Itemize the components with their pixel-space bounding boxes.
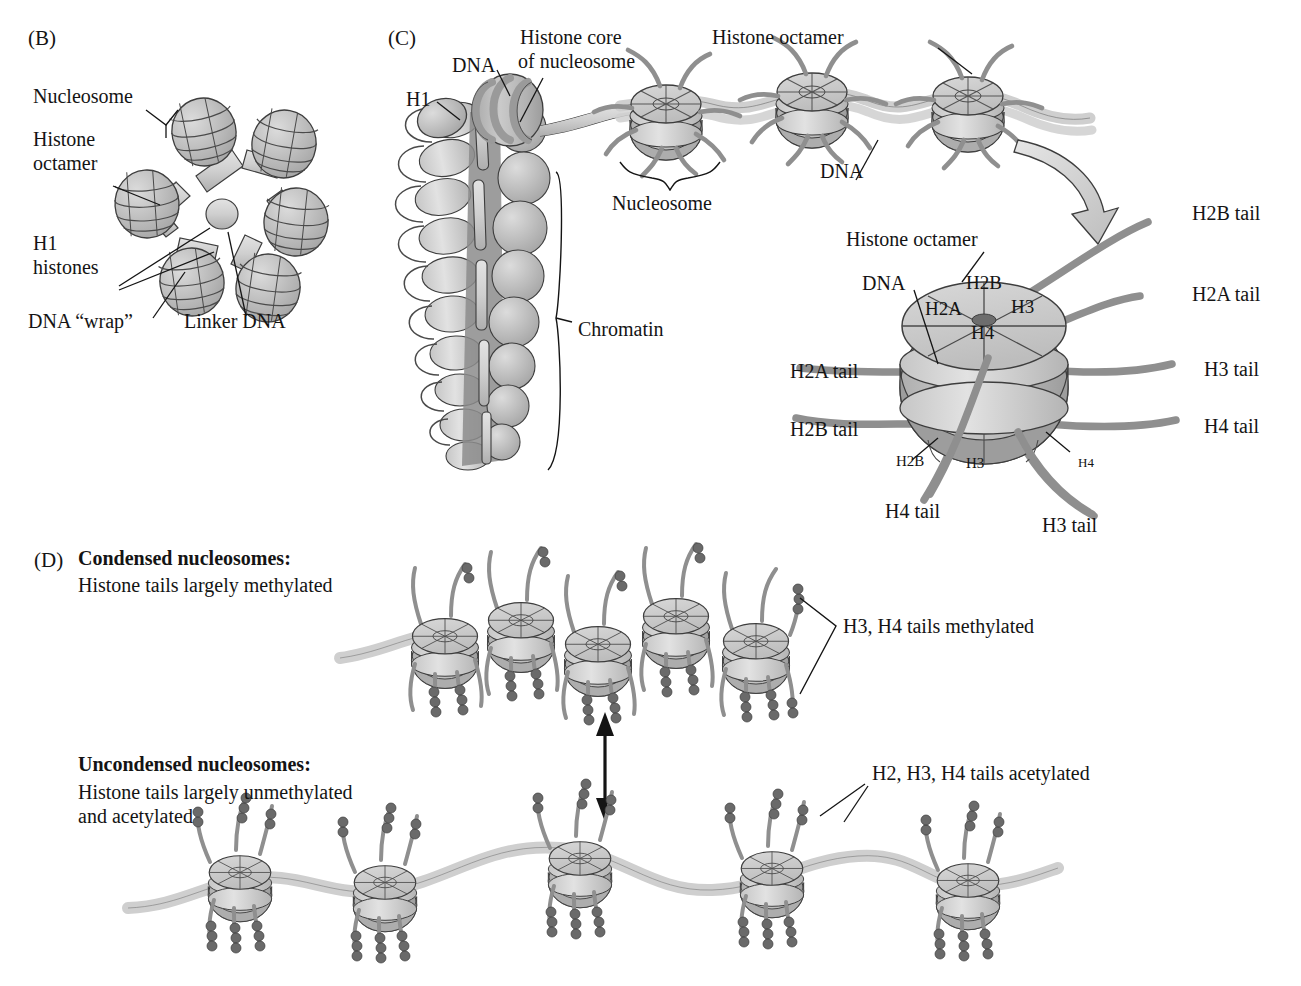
tail-h4-right [1046, 420, 1176, 427]
panel-b-label-dna-wrap: DNA “wrap” [28, 310, 133, 334]
panel-b-label-h1-line2: histones [33, 256, 99, 280]
uncondensed-subtitle-line2: and acetylated [78, 805, 193, 829]
panel-d-tag: (D) [34, 548, 63, 573]
detail-label-h3-tail-bottom: H3 tail [1042, 514, 1097, 538]
condensed-nucleosome-4 [641, 543, 713, 697]
figure-canvas: (B) Nucleosome Histone octamer H1 histon… [0, 0, 1301, 986]
panel-c-label-dna-top: DNA [452, 54, 495, 78]
diagram-vector-layer [0, 0, 1301, 986]
condensed-subtitle: Histone tails largely methylated [78, 574, 333, 598]
panel-d-uncondensed-row [128, 779, 1058, 963]
panel-b-label-nucleosome: Nucleosome [33, 85, 133, 109]
panel-c-label-dna-chain: DNA [820, 160, 863, 184]
detail-core-h2a: H2A [925, 298, 962, 320]
panel-c-label-histone-octamer-top: Histone octamer [712, 26, 844, 50]
panel-b-label-histone-octamer-line2: octamer [33, 152, 97, 176]
panel-b-label-histone-octamer-line1: Histone [33, 128, 95, 152]
condensed-callout-bracket [800, 598, 836, 694]
condensed-nucleosome-5 [721, 569, 804, 722]
detail-label-h2a-tail-left: H2A tail [790, 360, 858, 384]
tail-h2b-top [1018, 222, 1148, 300]
detail-core-h2b: H2B [966, 272, 1002, 294]
condensed-nucleosome-2 [486, 547, 558, 701]
detail-label-h2a-tail-right: H2A tail [1192, 283, 1260, 307]
uncondensed-nucleosome-4 [725, 789, 808, 949]
condensed-title: Condensed nucleosomes: [78, 547, 291, 571]
panel-c-label-histone-core-line1: Histone core [520, 26, 622, 50]
uncondensed-title: Uncondensed nucleosomes: [78, 753, 311, 777]
detail-side-h3: H3 [966, 455, 984, 473]
uncondensed-subtitle-line1: Histone tails largely unmethylated [78, 781, 353, 805]
detail-label-h4-tail-right: H4 tail [1204, 415, 1259, 439]
panel-d-condensed-row [340, 543, 836, 725]
panel-b-label-linker-dna: Linker DNA [184, 310, 286, 334]
panel-c-chromatin-fiber [396, 70, 634, 470]
uncondensed-callout: H2, H3, H4 tails acetylated [872, 762, 1090, 786]
detail-core-h4: H4 [971, 322, 994, 344]
panel-b-tag: (B) [28, 26, 56, 51]
condensed-nucleosome-1 [410, 563, 482, 717]
uncondensed-nucleosome-2 [338, 803, 421, 963]
detail-side-h4: H4 [1078, 455, 1094, 470]
pointer-h4 [1046, 432, 1070, 452]
detail-label-dna: DNA [862, 272, 905, 296]
uncondensed-nucleosome-1 [193, 793, 276, 953]
detail-label-h4-tail-bottom: H4 tail [885, 500, 940, 524]
panel-c-label-histone-core-line2: of nucleosome [518, 50, 635, 74]
detail-label-h3-tail-right: H3 tail [1204, 358, 1259, 382]
acetylated-callout-leaders [820, 784, 868, 822]
panel-b-label-h1-line1: H1 [33, 232, 57, 256]
panel-b-illustration [113, 92, 332, 326]
condensed-callout: H3, H4 tails methylated [843, 615, 1034, 639]
condensed-nucleosome-3 [563, 571, 635, 725]
panel-c-tag: (C) [388, 26, 416, 51]
detail-side-h2b: H2B [896, 453, 924, 471]
detail-label-histone-octamer: Histone octamer [846, 228, 978, 252]
detail-label-h2b-tail-top: H2B tail [1192, 202, 1260, 226]
panel-c-label-h1: H1 [406, 88, 430, 112]
panel-c-label-nucleosome-brace: Nucleosome [612, 192, 712, 216]
panel-c-label-chromatin: Chromatin [578, 318, 664, 342]
detail-core-h3: H3 [1011, 296, 1034, 318]
detail-label-h2b-tail-left: H2B tail [790, 418, 858, 442]
